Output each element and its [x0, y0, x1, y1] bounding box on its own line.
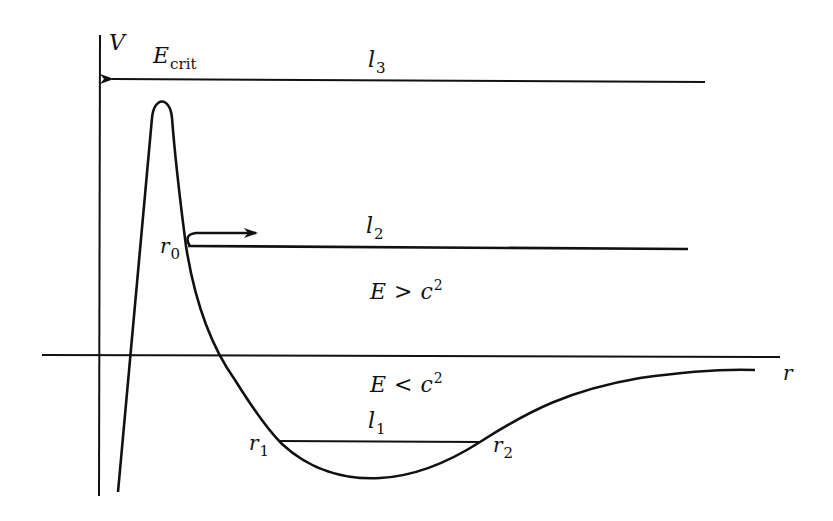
e-crit-label: Ecrit: [153, 45, 196, 67]
l1-label: l1: [368, 410, 386, 432]
l3-label: l3: [368, 49, 386, 71]
l3-line: [112, 79, 705, 82]
r-axis: [42, 355, 780, 357]
potential-diagram: [0, 0, 833, 521]
region-above-label: E>c2: [370, 281, 443, 303]
l2-bounce-arrow: [188, 233, 256, 246]
v-axis: [99, 35, 100, 496]
r2-label: r2: [493, 435, 513, 455]
l2-line: [188, 246, 688, 249]
l1-line: [280, 441, 480, 442]
region-below-label: E<c2: [370, 374, 443, 396]
v-axis-label: V: [109, 32, 125, 54]
l2-label: l2: [366, 215, 384, 237]
r0-label: r0: [160, 236, 180, 256]
r-axis-label: r: [783, 363, 793, 383]
r1-label: r1: [249, 433, 269, 453]
